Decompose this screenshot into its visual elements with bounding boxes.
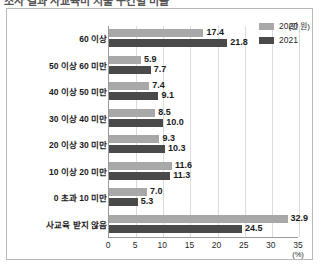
category-label-3: 30 이상 40 미만	[15, 114, 107, 124]
chart-frame: (만 원) 60 이상 50 이상 60 미만 40 이상 50 미만 30 이…	[6, 8, 313, 260]
gridline-35	[299, 26, 300, 237]
bar-2020-6[interactable]	[109, 188, 147, 196]
x-tick-label-25: 25	[239, 240, 248, 250]
bar-2021-0[interactable]	[109, 39, 227, 47]
x-tick-label-0: 0	[106, 240, 111, 250]
x-tick-label-20: 20	[212, 240, 221, 250]
bar-group-5: 11.611.3	[109, 159, 298, 186]
value-label-2021-4: 10.3	[168, 144, 186, 152]
bar-group-6: 7.05.3	[109, 185, 298, 212]
bar-2021-2[interactable]	[109, 92, 158, 100]
category-label-1: 50 이상 60 미만	[15, 61, 107, 71]
value-label-2021-6: 5.3	[141, 197, 154, 205]
value-label-2020-2: 7.4	[152, 81, 165, 89]
chart-figure: 조사 결과 사교육비 지출 구간별 비율 (만 원) 60 이상 50 이상 6…	[0, 0, 321, 268]
bar-2021-1[interactable]	[109, 66, 151, 74]
value-label-2020-1: 5.9	[144, 55, 157, 63]
value-label-2021-3: 10.0	[166, 118, 184, 126]
value-label-2021-0: 21.8	[230, 38, 248, 46]
x-tick-label-15: 15	[185, 240, 194, 250]
value-label-2020-4: 9.3	[162, 134, 175, 142]
bar-2020-4[interactable]	[109, 135, 159, 143]
value-label-2021-1: 7.7	[154, 65, 167, 73]
category-label-0: 60 이상	[15, 34, 107, 44]
bar-2021-5[interactable]	[109, 172, 170, 180]
x-tick-label-35: 35	[293, 240, 302, 250]
category-label-5: 10 이상 20 미만	[15, 167, 107, 177]
category-label-6: 0 초과 10 미만	[15, 193, 107, 203]
category-label-2: 40 이상 50 미만	[15, 87, 107, 97]
legend-label-2020: 2020	[279, 21, 298, 31]
legend: 2020 2021	[259, 21, 298, 49]
bar-rows: 17.421.85.97.77.49.18.510.09.310.311.611…	[109, 26, 298, 237]
legend-swatch-2020-icon	[259, 23, 274, 30]
bar-group-1: 5.97.7	[109, 53, 298, 80]
legend-swatch-2021-icon	[259, 37, 274, 44]
bar-2020-1[interactable]	[109, 56, 141, 64]
bar-2020-0[interactable]	[109, 29, 203, 37]
value-label-2020-0: 17.4	[206, 28, 224, 36]
category-label-7: 사교육 받지 않음	[15, 220, 107, 230]
value-label-2021-5: 11.3	[173, 171, 190, 179]
legend-item-2020[interactable]: 2020	[259, 21, 298, 31]
value-label-2020-3: 8.5	[158, 108, 171, 116]
x-tick-label-5: 5	[133, 240, 138, 250]
bar-2020-5[interactable]	[109, 162, 172, 170]
bar-2020-2[interactable]	[109, 82, 149, 90]
bar-2020-3[interactable]	[109, 109, 155, 117]
bar-group-7: 32.924.5	[109, 212, 298, 239]
x-axis-unit-label: (%)	[292, 250, 304, 259]
bar-2021-6[interactable]	[109, 198, 138, 206]
legend-item-2021[interactable]: 2021	[259, 35, 298, 45]
x-tick-label-30: 30	[266, 240, 275, 250]
value-label-2021-2: 9.1	[161, 91, 174, 99]
value-label-2020-7: 32.9	[291, 214, 309, 222]
clipped-heading-text: 조사 결과 사교육비 지출 구간별 비율	[4, 0, 169, 7]
category-label-4: 20 이상 30 미만	[15, 140, 107, 150]
value-label-2020-6: 7.0	[150, 187, 163, 195]
legend-label-2021: 2021	[279, 35, 298, 45]
bar-2020-7[interactable]	[109, 215, 288, 223]
bar-2021-3[interactable]	[109, 119, 163, 127]
value-label-2021-7: 24.5	[245, 224, 263, 232]
bar-group-2: 7.49.1	[109, 79, 298, 106]
x-tick-label-10: 10	[158, 240, 167, 250]
plot-area: 17.421.85.97.77.49.18.510.09.310.311.611…	[108, 26, 298, 238]
bar-group-3: 8.510.0	[109, 106, 298, 133]
value-label-2020-5: 11.6	[175, 161, 192, 169]
x-axis-ticks: 05101520253035(%)	[108, 240, 298, 262]
bar-group-4: 9.310.3	[109, 132, 298, 159]
bar-2021-7[interactable]	[109, 225, 242, 233]
clipped-heading: 조사 결과 사교육비 지출 구간별 비율	[0, 0, 321, 7]
bar-2021-4[interactable]	[109, 145, 165, 153]
